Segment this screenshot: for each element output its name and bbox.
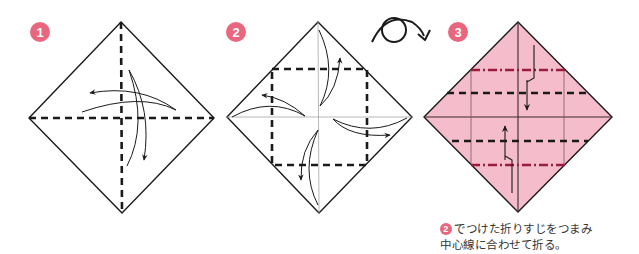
flip-over-icon (372, 18, 430, 42)
step-1: 1 (29, 22, 214, 213)
step-number-1: 1 (36, 25, 43, 40)
caption-text-1: でつけた折りすじをつまみ (454, 222, 592, 236)
step-number-2: 2 (232, 25, 239, 40)
origami-diagram: 1 2 3 (0, 0, 639, 254)
caption-line-2: 中心線に合わせて折る。 (440, 237, 635, 253)
step-3: 3 (424, 22, 612, 212)
step-number-3: 3 (454, 25, 461, 40)
instruction-caption: 2でつけた折りすじをつまみ 中心線に合わせて折る。 (440, 221, 635, 253)
caption-line-1: 2でつけた折りすじをつまみ (440, 221, 635, 237)
step-2: 2 (226, 22, 412, 213)
paper-square (227, 22, 412, 213)
caption-step-badge: 2 (440, 223, 452, 235)
